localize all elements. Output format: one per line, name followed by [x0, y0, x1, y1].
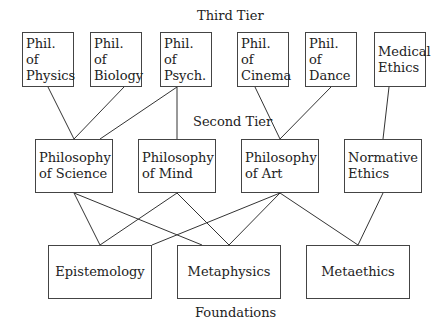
node-line-1: Medical	[378, 44, 422, 60]
edge-art-episte	[152, 193, 280, 245]
node-philosophy-of-art[interactable]: Philosophy of Art	[241, 139, 319, 193]
node-label: Metaethics	[321, 264, 394, 280]
edge-phys-science	[48, 87, 74, 139]
node-line-2: Dance	[309, 68, 353, 84]
node-line-2: of Art	[245, 166, 315, 182]
edge-normative-metaeth	[358, 193, 383, 245]
node-epistemology[interactable]: Epistemology	[48, 245, 152, 299]
node-line-1: Phil. of	[94, 36, 138, 68]
node-phil-of-cinema[interactable]: Phil. of Cinema	[237, 32, 289, 87]
node-line-1: Philosophy	[245, 150, 315, 166]
node-phil-of-dance[interactable]: Phil. of Dance	[305, 32, 357, 87]
node-line-2: Ethics	[378, 60, 422, 76]
node-line-2: Biology	[94, 68, 138, 84]
edge-bio-science	[74, 87, 124, 139]
edge-art-metaeth	[280, 193, 358, 245]
node-medical-ethics[interactable]: Medical Ethics	[374, 32, 426, 87]
node-normative-ethics[interactable]: Normative Ethics	[344, 139, 422, 193]
node-label: Epistemology	[55, 264, 144, 280]
node-line-2: of Mind	[142, 166, 212, 182]
node-metaphysics[interactable]: Metaphysics	[177, 245, 281, 299]
edge-art-metaph	[229, 193, 280, 245]
node-line-2: Cinema	[241, 68, 285, 84]
edge-mind-episte	[100, 193, 177, 245]
node-line-1: Phil. of	[164, 36, 208, 68]
node-metaethics[interactable]: Metaethics	[306, 245, 410, 299]
edge-cinema-art	[255, 87, 280, 139]
node-line-2: of Science	[39, 166, 109, 182]
node-line-1: Normative	[348, 150, 418, 166]
third-tier-label: Third Tier	[197, 8, 264, 23]
diagram-canvas: Third Tier Second Tier Foundations Phil.…	[0, 0, 447, 335]
node-line-1: Philosophy	[39, 150, 109, 166]
second-tier-label: Second Tier	[193, 114, 272, 129]
node-philosophy-of-science[interactable]: Philosophy of Science	[35, 139, 113, 193]
foundations-label: Foundations	[195, 305, 276, 320]
node-line-2: Psych.	[164, 68, 208, 84]
node-phil-of-physics[interactable]: Phil. of Physics	[22, 32, 74, 87]
edge-medical-normative	[383, 87, 389, 139]
node-philosophy-of-mind[interactable]: Philosophy of Mind	[138, 139, 216, 193]
node-line-1: Phil. of	[309, 36, 353, 68]
node-phil-of-biology[interactable]: Phil. of Biology	[90, 32, 142, 87]
node-line-1: Phil. of	[26, 36, 70, 68]
node-line-2: Physics	[26, 68, 70, 84]
node-line-2: Ethics	[348, 166, 418, 182]
node-label: Metaphysics	[188, 264, 271, 280]
node-line-1: Phil. of	[241, 36, 285, 68]
edge-psych-science	[100, 87, 177, 139]
edge-dance-art	[280, 87, 331, 139]
node-phil-of-psych[interactable]: Phil. of Psych.	[160, 32, 212, 87]
edge-mind-metaph	[177, 193, 229, 245]
node-line-1: Philosophy	[142, 150, 212, 166]
edge-science-episte	[74, 193, 100, 245]
